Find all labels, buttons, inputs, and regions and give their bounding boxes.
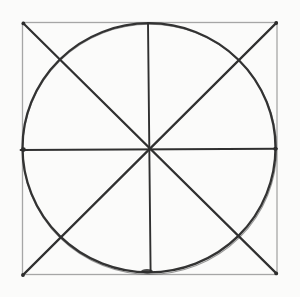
horizontal-center-axis xyxy=(21,149,277,150)
vertical-center-axis xyxy=(148,23,151,272)
tangent-mark-left xyxy=(21,147,26,152)
scanned-drawing-page xyxy=(0,0,300,297)
geometric-drawing xyxy=(0,0,300,297)
corner-mark-top-left xyxy=(22,22,26,26)
corner-mark-bottom-right xyxy=(274,272,278,276)
corner-mark-top-right xyxy=(274,21,278,25)
corner-mark-bottom-left xyxy=(21,273,25,277)
tangent-mark-bottom xyxy=(141,269,153,273)
tangent-mark-right xyxy=(273,147,277,151)
